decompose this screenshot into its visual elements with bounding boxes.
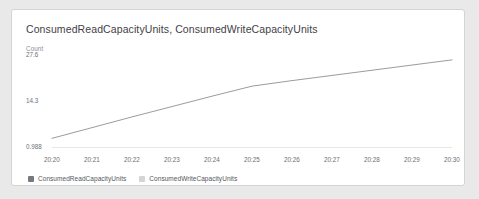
metric-chart-card: ConsumedReadCapacityUnits, ConsumedWrite… (11, 9, 465, 186)
legend-item[interactable]: ConsumedReadCapacityUnits (28, 175, 126, 182)
x-axis-tick-label: 20:24 (204, 157, 220, 163)
legend-swatch-icon (139, 176, 145, 182)
y-axis-tick-label: 27.6 (26, 52, 38, 58)
plot-area: 27.6 14.3 0.988 (26, 54, 452, 146)
x-axis: 20:2020:2120:2220:2320:2420:2520:2620:27… (52, 157, 452, 169)
x-axis-tick-label: 20:26 (284, 157, 300, 163)
legend-swatch-icon (28, 176, 34, 182)
x-axis-tick-label: 20:23 (164, 157, 180, 163)
baseline-gridline (52, 147, 452, 148)
data-series-line (52, 54, 452, 146)
chart-title: ConsumedReadCapacityUnits, ConsumedWrite… (26, 23, 318, 35)
y-axis-tick-label: 14.3 (26, 98, 38, 104)
chart-legend: ConsumedReadCapacityUnitsConsumedWriteCa… (28, 175, 237, 182)
legend-label: ConsumedWriteCapacityUnits (149, 175, 237, 182)
x-axis-tick-label: 20:27 (324, 157, 340, 163)
x-axis-tick-label: 20:22 (124, 157, 140, 163)
x-axis-tick-label: 20:30 (444, 157, 460, 163)
y-axis-tick-label: 0.988 (26, 144, 42, 150)
series-line (52, 60, 452, 138)
x-axis-tick-label: 20:20 (44, 157, 60, 163)
x-axis-tick-label: 20:29 (404, 157, 420, 163)
x-axis-tick-label: 20:28 (364, 157, 380, 163)
x-axis-tick-label: 20:21 (84, 157, 100, 163)
page-background: ConsumedReadCapacityUnits, ConsumedWrite… (0, 0, 479, 199)
legend-item[interactable]: ConsumedWriteCapacityUnits (139, 175, 237, 182)
x-axis-tick-label: 20:25 (244, 157, 260, 163)
legend-label: ConsumedReadCapacityUnits (38, 175, 126, 182)
